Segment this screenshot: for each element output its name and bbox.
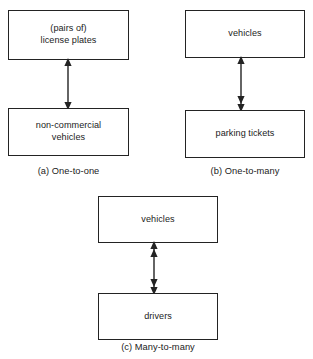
figure-caption: (b) One-to-many [185,166,305,176]
figure-caption: (a) One-to-one [8,166,129,176]
entity-label: parking tickets [216,128,275,140]
entity-box-drivers: drivers [98,293,218,340]
entity-box-non-commercial-vehicles: non-commercial vehicles [8,108,129,156]
figure-panel-one-to-one: (pairs of) license plates non-commercial… [0,0,150,185]
entity-label: (pairs of) license plates [41,23,97,46]
figure-caption: (c) Many-to-many [98,342,218,352]
entity-box-vehicles: vehicles [185,10,305,58]
entity-label: drivers [144,311,172,323]
entity-box-parking-tickets: parking tickets [185,110,305,158]
entity-label: vehicles [228,28,261,40]
entity-label: vehicles [141,214,174,226]
relationship-connector-many-to-many [146,241,162,295]
relationship-connector-one-to-one [60,58,76,110]
entity-box-license-plates: (pairs of) license plates [8,10,129,60]
entity-label: non-commercial vehicles [36,120,101,143]
figure-panel-many-to-many: vehicles drivers (c) Many-to-many [90,190,225,359]
entity-box-vehicles: vehicles [98,196,218,243]
relationship-connector-one-to-many [233,56,249,112]
figure-panel-one-to-many: vehicles parking tickets (b) One-to-many [178,0,313,185]
